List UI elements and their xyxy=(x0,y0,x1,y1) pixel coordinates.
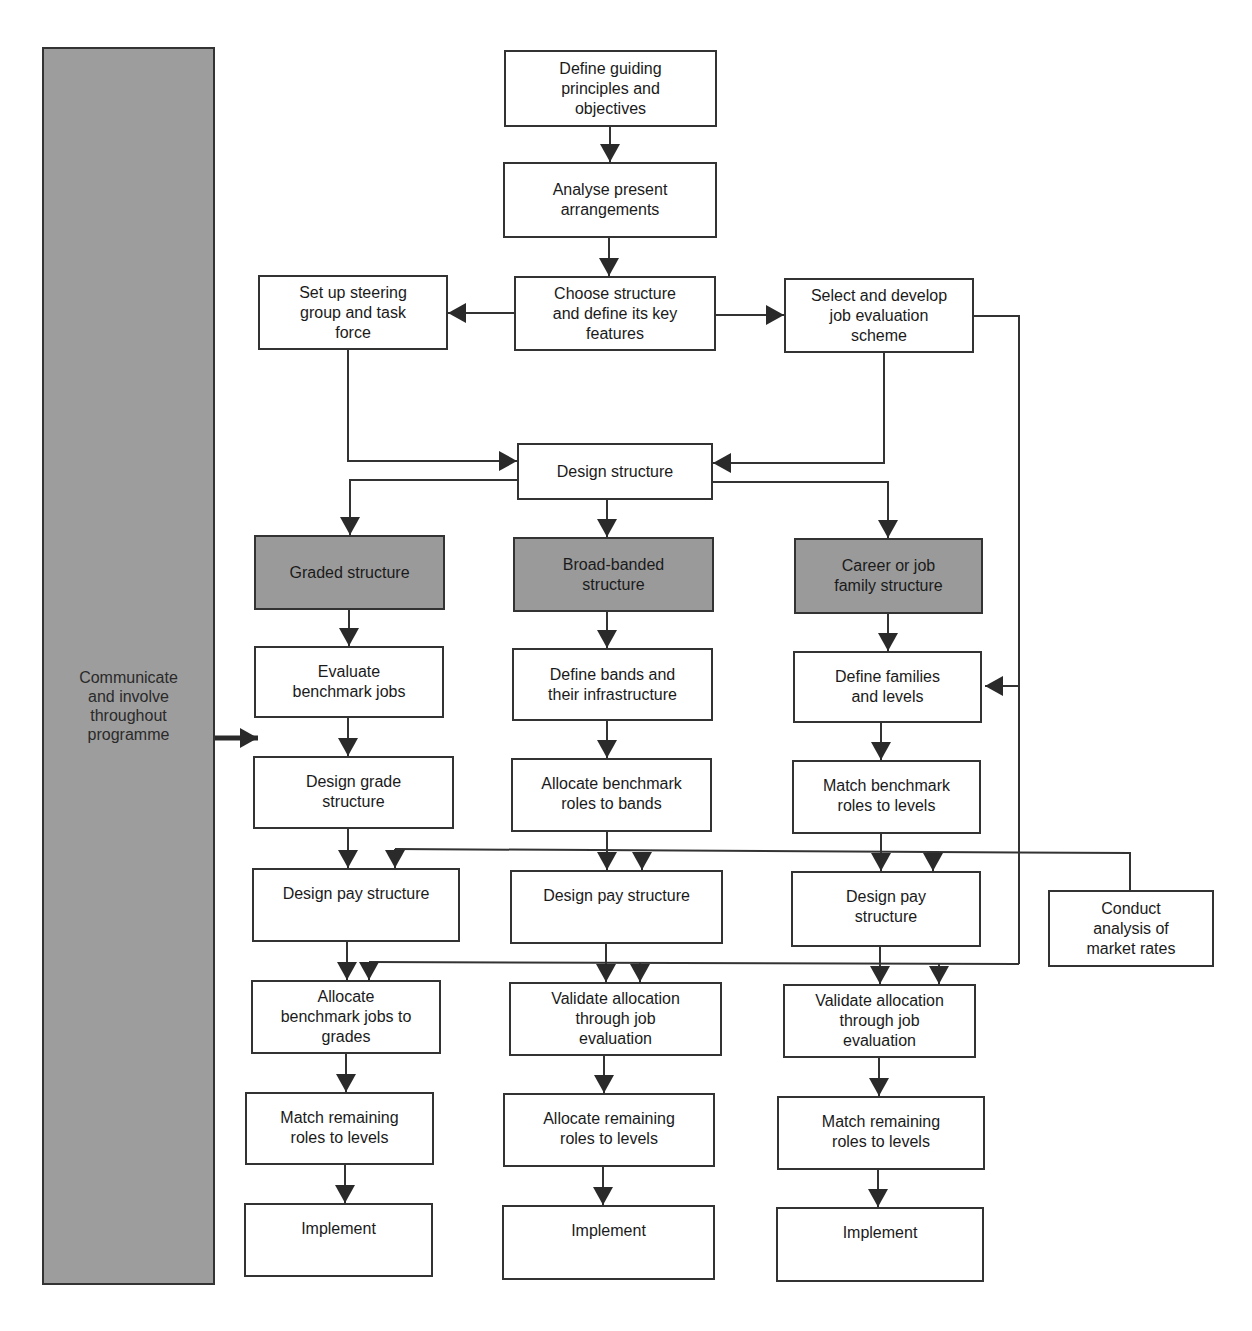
choose-structure-box: Choose structure and define its key feat… xyxy=(514,276,716,351)
graded-step-3: Design pay structure xyxy=(252,868,460,942)
broadband-step-3: Design pay structure xyxy=(510,870,723,944)
design-structure-box: Design structure xyxy=(517,443,713,500)
graded-structure-header: Graded structure xyxy=(254,535,445,610)
graded-step-5: Match remaining roles to levels xyxy=(245,1092,434,1165)
career-step-2: Match benchmark roles to levels xyxy=(792,760,981,834)
communicate-involve-sidebar: Communicate and involve throughout progr… xyxy=(42,47,215,1285)
career-family-structure-header: Career or job family structure xyxy=(794,538,983,614)
graded-step-1: Evaluate benchmark jobs xyxy=(254,646,444,718)
market-rates-box: Conduct analysis of market rates xyxy=(1048,890,1214,967)
flowchart-canvas: Communicate and involve throughout progr… xyxy=(0,0,1252,1331)
broadband-step-1: Define bands and their infrastructure xyxy=(512,648,713,721)
sidebar-label: Communicate and involve throughout progr… xyxy=(79,668,178,744)
career-step-6: Implement xyxy=(776,1207,984,1282)
broadband-step-6: Implement xyxy=(502,1205,715,1280)
steering-group-box: Set up steering group and task force xyxy=(258,275,448,350)
graded-step-6: Implement xyxy=(244,1203,433,1277)
job-evaluation-scheme-box: Select and develop job evaluation scheme xyxy=(784,278,974,353)
broad-banded-structure-header: Broad-banded structure xyxy=(513,537,714,612)
define-principles-box: Define guiding principles and objectives xyxy=(504,50,717,127)
graded-step-4: Allocate benchmark jobs to grades xyxy=(251,980,441,1054)
graded-step-2: Design grade structure xyxy=(253,756,454,829)
broadband-step-2: Allocate benchmark roles to bands xyxy=(511,758,712,832)
broadband-step-4: Validate allocation through job evaluati… xyxy=(509,982,722,1056)
career-step-5: Match remaining roles to levels xyxy=(777,1096,985,1170)
career-step-4: Validate allocation through job evaluati… xyxy=(783,984,976,1058)
career-step-3: Design pay structure xyxy=(791,871,981,947)
career-step-1: Define families and levels xyxy=(793,651,982,723)
broadband-step-5: Allocate remaining roles to levels xyxy=(503,1093,715,1167)
analyse-present-box: Analyse present arrangements xyxy=(503,162,717,238)
